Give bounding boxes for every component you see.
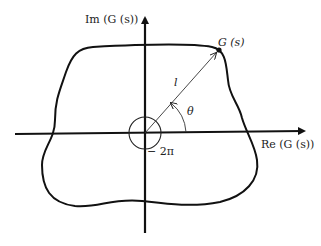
vector-label: l <box>174 76 178 89</box>
nyquist-diagram: Im (G (s)) Re (G (s)) G (s) l θ − 2π <box>0 0 321 246</box>
theta-arc <box>171 103 186 132</box>
vector-l <box>145 53 216 133</box>
point-label: G (s) <box>218 36 245 49</box>
real-axis <box>15 131 304 134</box>
nyquist-contour <box>42 44 257 206</box>
imag-axis-label: Im (G (s)) <box>85 13 138 26</box>
encirclement-label: − 2π <box>147 145 174 158</box>
angle-label: θ <box>187 105 194 118</box>
diagram-canvas: Im (G (s)) Re (G (s)) G (s) l θ − 2π <box>0 0 321 246</box>
real-axis-label: Re (G (s)) <box>261 138 314 151</box>
